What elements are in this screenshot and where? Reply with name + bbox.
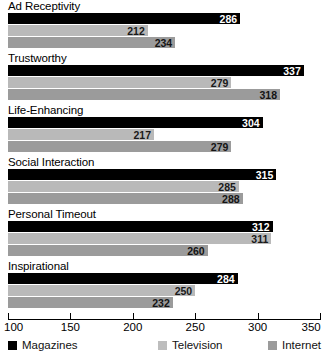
bar-row: 288 — [0, 193, 332, 204]
bar-magazines[interactable]: 315 — [8, 169, 276, 180]
bar-internet[interactable]: 234 — [8, 37, 175, 48]
bar-row: 315 — [0, 169, 332, 180]
bar-television[interactable]: 250 — [8, 285, 195, 296]
category-label: Ad Receptivity — [0, 0, 332, 13]
plot-area: Ad Receptivity286212234Trustworthy337279… — [0, 0, 332, 312]
bar-internet[interactable]: 279 — [8, 141, 231, 152]
bar-value-label: 212 — [127, 25, 145, 36]
bar-magazines[interactable]: 312 — [8, 221, 273, 232]
bar-row: 279 — [0, 141, 332, 152]
bar-row: 232 — [0, 297, 332, 308]
x-axis-tick — [195, 313, 196, 320]
x-axis-tick — [8, 313, 9, 320]
bar-internet[interactable]: 260 — [8, 245, 208, 256]
bar-row: 318 — [0, 89, 332, 100]
category-label: Life-Enhancing — [0, 104, 332, 117]
bar-row: 286 — [0, 13, 332, 24]
bar-television[interactable]: 285 — [8, 181, 239, 192]
bar-row: 212 — [0, 25, 332, 36]
bar-magazines[interactable]: 337 — [8, 65, 304, 76]
x-axis-tick — [258, 313, 259, 320]
bar-magazines[interactable]: 286 — [8, 13, 240, 24]
bar-value-label: 311 — [251, 233, 268, 244]
bar-group: Personal Timeout312311260 — [0, 208, 332, 257]
x-axis-tick — [70, 313, 71, 320]
legend-item-magazines[interactable]: Magazines — [8, 338, 78, 352]
bar-value-label: 234 — [155, 37, 173, 48]
bar-row: 260 — [0, 245, 332, 256]
bar-magazines[interactable]: 304 — [8, 117, 263, 128]
bar-row: 250 — [0, 285, 332, 296]
legend-label: Television — [172, 338, 223, 352]
bar-value-label: 284 — [217, 273, 235, 284]
bar-row: 311 — [0, 233, 332, 244]
bar-television[interactable]: 217 — [8, 129, 154, 140]
bar-internet[interactable]: 288 — [8, 193, 243, 204]
category-label: Social Interaction — [0, 156, 332, 169]
bar-value-label: 285 — [218, 181, 236, 192]
bar-group: Trustworthy337279318 — [0, 52, 332, 101]
bar-row: 234 — [0, 37, 332, 48]
bar-value-label: 286 — [220, 13, 238, 24]
bar-magazines[interactable]: 284 — [8, 273, 238, 284]
bar-chart: Ad Receptivity286212234Trustworthy337279… — [0, 0, 332, 360]
bar-value-label: 304 — [242, 117, 260, 128]
bar-value-label: 337 — [283, 65, 301, 76]
x-axis-tick — [133, 313, 134, 320]
legend-swatch-icon — [268, 341, 277, 350]
legend-item-television[interactable]: Television — [158, 338, 223, 352]
x-axis-tick — [320, 313, 321, 320]
bar-value-label: 260 — [187, 245, 205, 256]
x-axis-tick-label: 300 — [248, 321, 267, 334]
legend-item-internet[interactable]: Internet — [268, 338, 321, 352]
bar-internet[interactable]: 232 — [8, 297, 173, 308]
x-axis-tick-label: 100 — [4, 321, 23, 334]
x-axis-tick-label: 150 — [61, 321, 80, 334]
legend-label: Internet — [282, 338, 321, 352]
bar-internet[interactable]: 318 — [8, 89, 280, 100]
bar-value-label: 250 — [175, 285, 193, 296]
category-label: Inspirational — [0, 260, 332, 273]
chart-legend: MagazinesTelevisionInternet — [0, 338, 332, 358]
category-label: Trustworthy — [0, 52, 332, 65]
bar-group: Life-Enhancing304217279 — [0, 104, 332, 153]
bar-row: 312 — [0, 221, 332, 232]
x-axis-line — [8, 319, 320, 320]
x-axis-tick-label: 250 — [186, 321, 205, 334]
bar-row: 279 — [0, 77, 332, 88]
bar-value-label: 232 — [152, 297, 170, 308]
x-axis-tick-label: 200 — [123, 321, 142, 334]
bar-value-label: 318 — [260, 89, 278, 100]
bar-value-label: 279 — [211, 77, 229, 88]
legend-swatch-icon — [8, 341, 17, 350]
bar-television[interactable]: 279 — [8, 77, 231, 88]
category-label: Personal Timeout — [0, 208, 332, 221]
bar-group: Inspirational284250232 — [0, 260, 332, 309]
legend-swatch-icon — [158, 341, 167, 350]
bar-group: Social Interaction315285288 — [0, 156, 332, 205]
bar-value-label: 279 — [211, 141, 229, 152]
bar-value-label: 217 — [133, 129, 151, 140]
bar-row: 337 — [0, 65, 332, 76]
bar-value-label: 312 — [252, 221, 270, 232]
bar-value-label: 315 — [256, 169, 274, 180]
bar-television[interactable]: 311 — [8, 233, 271, 244]
bar-row: 217 — [0, 129, 332, 140]
bar-row: 284 — [0, 273, 332, 284]
x-axis-tick-label: 350 — [302, 321, 321, 334]
bar-group: Ad Receptivity286212234 — [0, 0, 332, 49]
legend-label: Magazines — [22, 338, 78, 352]
bar-television[interactable]: 212 — [8, 25, 148, 36]
bar-row: 285 — [0, 181, 332, 192]
bar-row: 304 — [0, 117, 332, 128]
x-axis: 100150200250300350 — [0, 313, 332, 337]
bar-value-label: 288 — [222, 193, 240, 204]
